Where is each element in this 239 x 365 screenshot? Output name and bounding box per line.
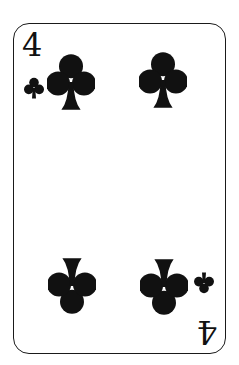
club-icon bbox=[47, 53, 95, 111]
club-icon bbox=[48, 257, 96, 315]
rank-index-bottom: 4 bbox=[197, 316, 217, 348]
playing-card: 4 4 bbox=[13, 23, 226, 354]
club-icon bbox=[139, 51, 187, 109]
club-icon bbox=[140, 258, 188, 316]
club-icon bbox=[194, 272, 214, 294]
club-icon bbox=[24, 77, 44, 99]
rank-index-top: 4 bbox=[22, 29, 42, 61]
